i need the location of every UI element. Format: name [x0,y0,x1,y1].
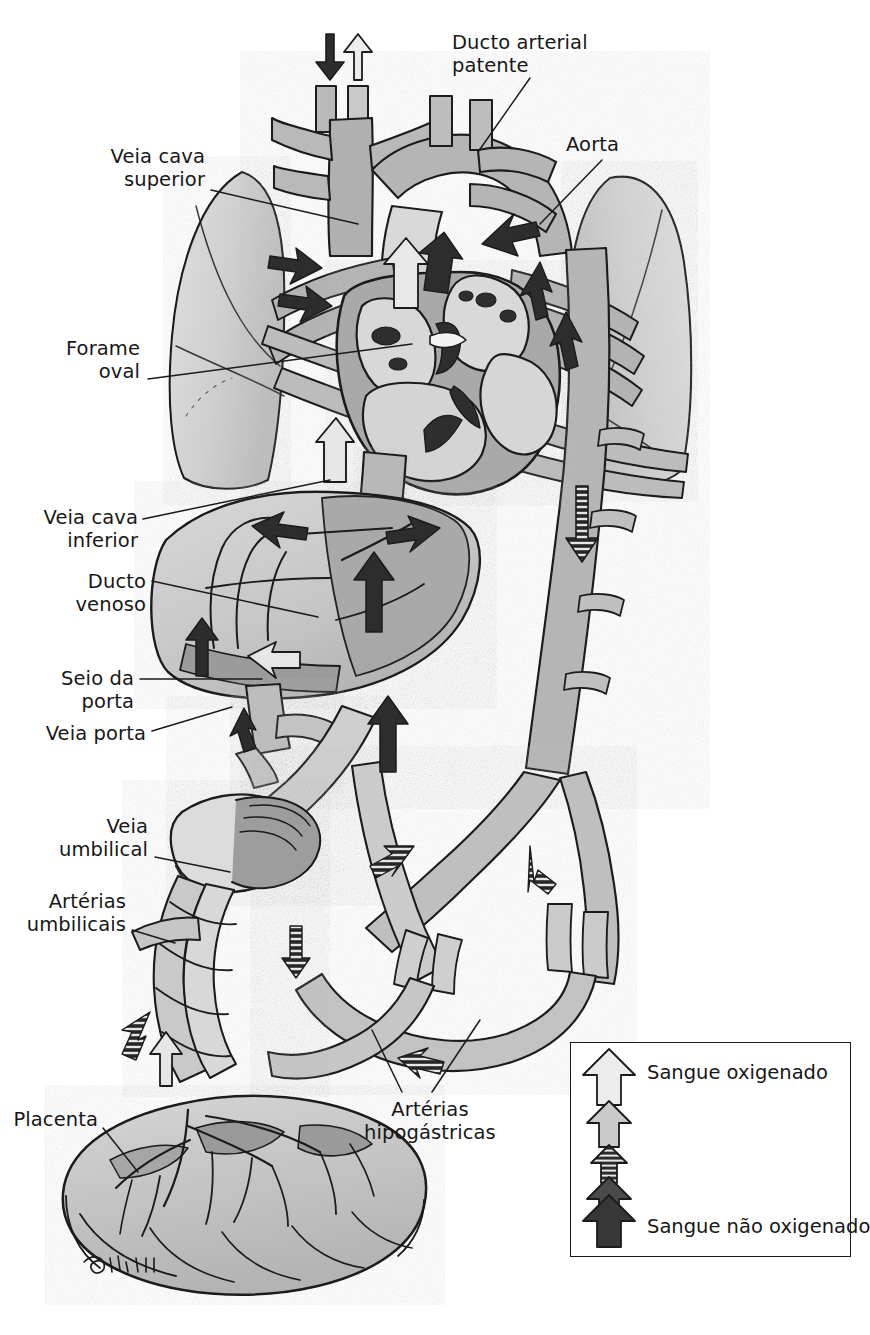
iliac-vessels [268,762,619,1079]
legend-arrow-2 [587,1101,631,1147]
arrow-trachea-out [344,34,372,80]
arrow-trachea-in [316,34,344,80]
label-seio-da-porta: Seio da porta [0,667,134,713]
label-veia-porta: Veia porta [0,722,146,745]
legend-arrow-1 [583,1049,635,1105]
label-arterias-umbilicais: Artérias umbilicais [0,890,126,936]
legend-label-oxygenated: Sangue oxigenado [647,1061,828,1084]
legend-arrow-5 [583,1195,635,1247]
legend-label-deoxygenated: Sangue não oxigenado [647,1215,870,1238]
label-aorta: Aorta [566,133,706,156]
label-arterias-hipogastricas: Artérias hipogástricas [330,1098,530,1144]
label-placenta: Placenta [0,1108,98,1131]
label-ducto-venoso: Ducto venoso [0,570,146,616]
label-ducto-arterial-patente: Ducto arterial patente [452,31,692,77]
label-veia-umbilical: Veia umbilical [0,815,148,861]
label-forame-oval: Forame oval [0,337,140,383]
label-veia-cava-superior: Veia cava superior [0,145,205,191]
label-veia-cava-inferior: Veia cava inferior [0,506,138,552]
legend-box: Sangue oxigenado Sangue não oxigenado [570,1042,851,1257]
